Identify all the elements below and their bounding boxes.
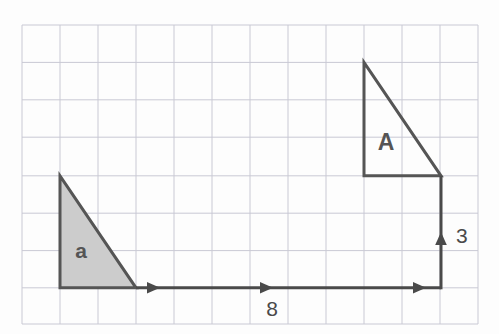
arrowhead-right-icon [147,282,160,294]
vertical-translation-vector [435,176,447,289]
arrowhead-right-icon [413,282,426,294]
large-triangle-label: A [378,129,395,155]
horizontal-vector-label: 8 [266,297,278,320]
geometry-figure: a A 8 3 [0,0,499,334]
figure-canvas: a A 8 3 [0,0,499,334]
small-triangle-label: a [75,239,87,262]
arrowhead-right-icon [260,282,273,294]
arrowhead-up-icon [435,232,447,245]
vertical-vector-label: 3 [456,224,468,247]
